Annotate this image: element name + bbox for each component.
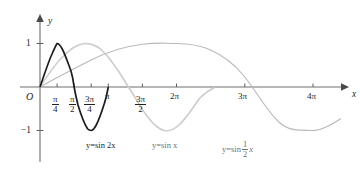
fraction-denominator: 2 [69, 105, 76, 114]
x-tick-label-pi-over-2: π 2 [69, 91, 76, 114]
curve-label-sin-2x: y=sin 2x [86, 141, 116, 150]
curve-label-variable: x [249, 145, 253, 154]
fraction-denominator: 4 [52, 105, 59, 114]
x-tick-label-3pi-over-2: 3π 2 [135, 91, 146, 114]
curve-label-sin-x: y=sin x [152, 141, 177, 150]
fraction-denominator: 2 [242, 150, 248, 159]
x-axis-arrowhead [341, 83, 349, 91]
origin-label: O [26, 92, 33, 102]
y-axis-label: y [48, 17, 52, 27]
y-axis-arrowhead [36, 14, 44, 22]
plot-canvas [0, 0, 361, 177]
x-tick-label-2pi: 2π [170, 92, 179, 101]
fraction-denominator: 2 [137, 105, 144, 114]
x-axis-label: x [352, 90, 356, 100]
x-tick-label-3pi: 3π [238, 92, 247, 101]
curve-label-prefix: y=sin [222, 145, 241, 154]
sine-graph-figure: y x O 1 −1 π 4 π 2 3π 4 π 3π 2 2π 3π 4π … [0, 0, 361, 177]
x-tick-label-4pi: 4π [307, 92, 316, 101]
curve-label-sin-half-x: y=sin 1 2 x [222, 140, 253, 158]
x-tick-label-3pi-over-4: 3π 4 [84, 91, 95, 114]
x-tick-label-pi-over-4: π 4 [52, 91, 59, 114]
x-tick-label-pi: π [105, 92, 110, 101]
y-tick-label-minus1: −1 [21, 126, 31, 136]
fraction-denominator: 4 [86, 105, 93, 114]
y-tick-label-1: 1 [26, 39, 31, 49]
